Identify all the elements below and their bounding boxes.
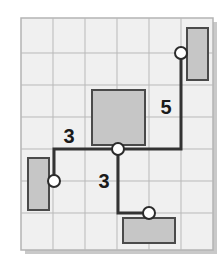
diagram-canvas: 3 3 5 (0, 0, 223, 257)
block-center (92, 90, 145, 145)
node-bottom[interactable] (143, 207, 155, 219)
block-bottom (123, 218, 175, 243)
edge-label-right: 5 (160, 96, 171, 118)
block-left (28, 158, 49, 210)
node-left[interactable] (48, 175, 60, 187)
node-center[interactable] (112, 143, 124, 155)
diagram-svg: 3 3 5 (0, 0, 223, 257)
edge-label-down: 3 (98, 170, 109, 192)
node-top-right[interactable] (175, 47, 187, 59)
block-top-right (187, 28, 208, 80)
edge-label-left: 3 (63, 125, 74, 147)
